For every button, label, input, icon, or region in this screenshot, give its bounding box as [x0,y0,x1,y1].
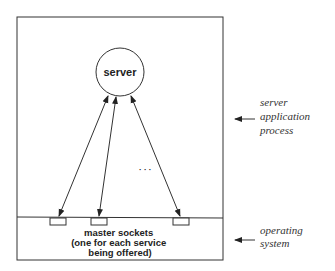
ellipsis: · · · [139,165,151,174]
arrow-socket-1 [59,96,108,216]
application-label-line-2: application [260,110,311,122]
os-label: operating system [260,224,306,249]
os-label-line-1: operating [260,224,303,236]
master-socket-2 [91,218,107,225]
arrow-socket-2 [99,97,116,216]
server-label: server [103,66,137,78]
arrow-socket-3 [131,96,180,216]
os-label-line-2: system [260,237,289,249]
master-socket-3 [173,218,189,225]
application-process-label: server application process [259,96,313,136]
sockets-label-line-3: being offered) [88,247,151,258]
sockets-label: master sockets (one for each service bei… [71,227,169,258]
diagram-canvas: server · · · master sockets (one for eac… [0,0,335,271]
application-label-line-3: process [259,124,293,136]
os-divider [17,217,223,218]
application-label-line-1: server [260,96,288,108]
master-socket-1 [50,218,66,225]
